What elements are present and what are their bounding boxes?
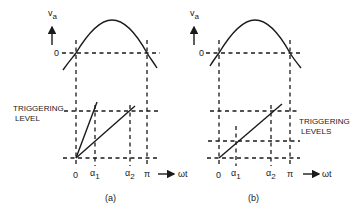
tick-0-b: 0 bbox=[216, 170, 221, 180]
panel-a: va 0 TRIGGERING LEVEL 0 α1 α2 π ωt (a) bbox=[13, 8, 188, 203]
wt-label-a: ωt bbox=[178, 169, 188, 179]
zero-label-b: 0 bbox=[199, 48, 204, 58]
sine-wave-a bbox=[63, 20, 157, 70]
ramp-b bbox=[219, 104, 282, 158]
tick-alpha1-b: α1 bbox=[231, 168, 241, 181]
trigger-label-b-line2: LEVELS bbox=[301, 127, 331, 136]
triggering-diagram: va 0 TRIGGERING LEVEL 0 α1 α2 π ωt (a) bbox=[0, 0, 359, 211]
sine-wave-b bbox=[210, 20, 301, 68]
wt-label-b: ωt bbox=[322, 169, 332, 179]
caption-b: (b) bbox=[248, 193, 259, 203]
tick-alpha2-b: α2 bbox=[266, 168, 276, 181]
tick-alpha2-a: α2 bbox=[125, 168, 135, 181]
trigger-label-b-line1: TRIGGERING bbox=[299, 117, 350, 126]
zero-label-a: 0 bbox=[54, 48, 59, 58]
tick-pi-a: π bbox=[144, 169, 150, 179]
ramp-shallow-a bbox=[76, 106, 135, 158]
trigger-label-a-line2: LEVEL bbox=[15, 114, 40, 123]
tick-pi-b: π bbox=[287, 169, 293, 179]
va-label-a: va bbox=[48, 8, 58, 21]
trigger-label-a-line1: TRIGGERING bbox=[13, 104, 64, 113]
tick-alpha1-a: α1 bbox=[90, 168, 100, 181]
caption-a: (a) bbox=[105, 193, 116, 203]
va-label-b: va bbox=[190, 8, 200, 21]
tick-0-a: 0 bbox=[73, 170, 78, 180]
panel-b: va 0 TRIGGERING LEVELS 0 α1 α2 π ωt (b) bbox=[190, 8, 350, 203]
